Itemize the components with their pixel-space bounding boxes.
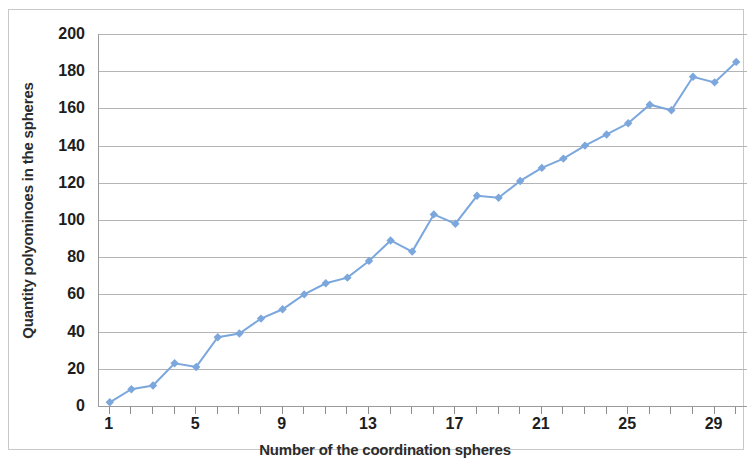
- x-axis-tick: [152, 407, 153, 414]
- x-axis-tick: [498, 407, 499, 414]
- x-axis-tick-label: 13: [359, 415, 377, 433]
- x-axis-tick: [130, 407, 131, 414]
- x-axis-title: Number of the coordination spheres: [9, 441, 752, 458]
- y-axis-tick-labels: 020406080100120140160180200: [45, 10, 89, 459]
- y-axis-tick-label: 0: [76, 397, 85, 415]
- data-point-marker: [106, 398, 114, 406]
- x-axis-tick-label: 21: [532, 415, 550, 433]
- data-point-marker: [127, 385, 135, 393]
- data-point-marker: [581, 141, 589, 149]
- x-axis-tick: [109, 407, 110, 414]
- y-axis-tick-label: 80: [67, 248, 85, 266]
- x-axis-tick: [346, 407, 347, 414]
- y-axis-tick-label: 160: [58, 99, 85, 117]
- x-axis-tick: [282, 407, 283, 414]
- data-point-marker: [602, 130, 610, 138]
- x-axis-tick-label: 5: [191, 415, 200, 433]
- y-axis-title: Quantity polyominoes in the spheres: [9, 10, 45, 410]
- data-point-marker: [538, 164, 546, 172]
- y-axis-tick-label: 100: [58, 211, 85, 229]
- x-axis-tick-labels: 1591317212529: [9, 415, 752, 439]
- x-axis-tick: [260, 407, 261, 414]
- x-axis-tick: [303, 407, 304, 414]
- x-axis-tick: [390, 407, 391, 414]
- x-axis-tick: [541, 407, 542, 414]
- x-axis-tick: [562, 407, 563, 414]
- x-axis-tick: [670, 407, 671, 414]
- x-axis-tick: [606, 407, 607, 414]
- data-point-marker: [408, 247, 416, 255]
- x-axis-tick: [454, 407, 455, 414]
- plot-area: [98, 34, 747, 407]
- data-point-marker: [559, 154, 567, 162]
- x-axis-tick-label: 17: [445, 415, 463, 433]
- x-axis-tick: [584, 407, 585, 414]
- y-axis-tick-label: 120: [58, 174, 85, 192]
- y-axis-title-text: Quantity polyominoes in the spheres: [19, 82, 36, 338]
- x-axis-tick: [325, 407, 326, 414]
- x-axis-tick: [195, 407, 196, 414]
- x-axis-tick: [476, 407, 477, 414]
- x-axis-tick: [433, 407, 434, 414]
- line-series: [99, 34, 747, 406]
- x-axis-tick: [735, 407, 736, 414]
- y-axis-tick-label: 40: [67, 323, 85, 341]
- x-axis-tick: [368, 407, 369, 414]
- x-axis-tick: [649, 407, 650, 414]
- y-axis-tick-label: 60: [67, 285, 85, 303]
- chart-container: Quantity polyominoes in the spheres 0204…: [8, 9, 744, 450]
- data-point-marker: [322, 279, 330, 287]
- y-axis-tick-label: 200: [58, 25, 85, 43]
- x-axis-tick-label: 25: [618, 415, 636, 433]
- x-axis-tick: [519, 407, 520, 414]
- x-axis-tick-label: 29: [705, 415, 723, 433]
- y-axis-tick-label: 20: [67, 360, 85, 378]
- x-axis-tick: [174, 407, 175, 414]
- series-line: [110, 62, 736, 402]
- data-point-marker: [430, 210, 438, 218]
- x-axis-tick-label: 9: [277, 415, 286, 433]
- x-axis-tick: [238, 407, 239, 414]
- x-axis-tick-label: 1: [104, 415, 113, 433]
- x-axis-ticks: [98, 407, 747, 415]
- x-axis-tick: [217, 407, 218, 414]
- y-axis-tick-label: 140: [58, 137, 85, 155]
- x-axis-tick: [411, 407, 412, 414]
- y-axis-tick-label: 180: [58, 62, 85, 80]
- x-axis-tick: [627, 407, 628, 414]
- x-axis-tick: [714, 407, 715, 414]
- x-axis-tick: [692, 407, 693, 414]
